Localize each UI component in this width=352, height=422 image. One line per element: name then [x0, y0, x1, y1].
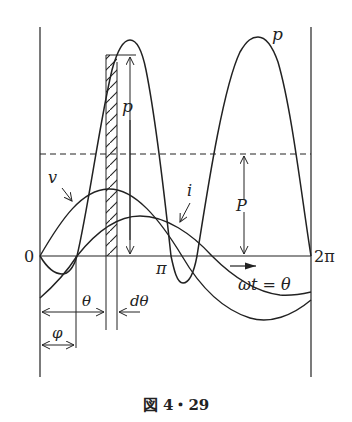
label-average-power: P [235, 196, 247, 215]
label-p-curve: p [272, 24, 283, 44]
label-pi: π [155, 259, 167, 278]
label-axis-omega-t: ωt = θ [238, 275, 291, 294]
power-waveform-diagram: p p v i P 0 π 2π ωt = θ θ dθ φ 図 4・29 [0, 0, 352, 422]
label-phi: φ [52, 324, 63, 342]
i-pointer-arrow [180, 203, 190, 222]
v-pointer-arrow [62, 188, 72, 201]
label-i: i [187, 181, 192, 200]
label-dtheta: dθ [130, 292, 149, 310]
label-theta: θ [82, 292, 91, 310]
figure-caption: 図 4・29 [143, 396, 210, 414]
label-origin: 0 [24, 247, 34, 266]
label-two-pi: 2π [314, 247, 335, 266]
label-p-instant: p [122, 96, 133, 116]
label-v: v [48, 168, 57, 187]
voltage-curve-v [40, 189, 311, 320]
